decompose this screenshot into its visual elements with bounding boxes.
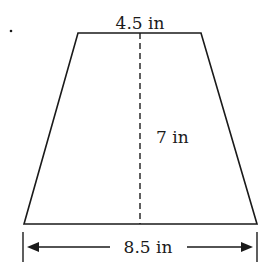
right-arrowhead-icon [241, 242, 253, 252]
top-base-label: 4.5 in [116, 13, 165, 33]
bottom-base-label: 8.5 in [124, 237, 173, 257]
bullet-dot [10, 30, 13, 33]
trapezoid-diagram: 4.5 in 7 in 8.5 in [0, 0, 266, 267]
height-label: 7 in [156, 127, 189, 147]
left-arrowhead-icon [27, 242, 39, 252]
